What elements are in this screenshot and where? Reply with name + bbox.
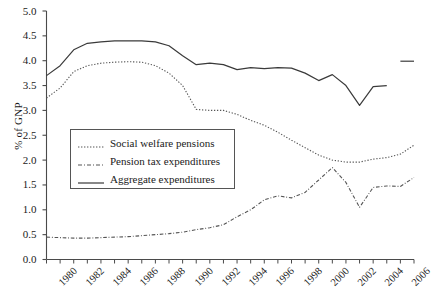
chart-legend: Social welfare pensions Pension tax expe… <box>70 129 235 189</box>
legend-item-social-welfare-pensions: Social welfare pensions <box>77 134 214 152</box>
series-line-aggregate-expenditures <box>47 41 387 106</box>
y-tick-label: 3.0 <box>7 105 37 116</box>
y-tick-label: 2.0 <box>7 155 37 166</box>
y-tick-label: 4.5 <box>7 30 37 41</box>
y-tick-label: 0.0 <box>7 254 37 265</box>
legend-item-aggregate-expenditures: Aggregate expenditures <box>77 170 215 188</box>
y-tick-label: 2.5 <box>7 130 37 141</box>
legend-label-aggregate-expenditures: Aggregate expenditures <box>110 174 215 185</box>
legend-swatch-dotted <box>77 138 105 148</box>
legend-swatch-dash-dot <box>77 156 105 166</box>
y-tick-label: 1.0 <box>7 204 37 215</box>
y-tick-label: 0.5 <box>7 229 37 240</box>
y-tick-label: 3.5 <box>7 80 37 91</box>
legend-item-pension-tax-expenditures: Pension tax expenditures <box>77 152 220 170</box>
legend-label-pension-tax-expenditures: Pension tax expenditures <box>110 156 220 167</box>
legend-swatch-solid <box>77 174 105 184</box>
y-tick-label: 5.0 <box>7 6 37 17</box>
y-tick-label: 4.0 <box>7 55 37 66</box>
y-tick-marks <box>43 11 47 260</box>
x-tick-marks <box>47 260 415 264</box>
y-tick-label: 1.5 <box>7 179 37 190</box>
legend-label-social-welfare-pensions: Social welfare pensions <box>110 138 214 149</box>
